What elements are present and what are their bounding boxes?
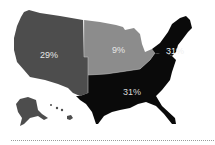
region-label-northeast: 31% (166, 47, 184, 56)
bottom-divider (11, 140, 215, 141)
region-label-south: 31% (123, 88, 141, 97)
region-label-midwest: 9% (112, 46, 125, 55)
region-hawaii[interactable] (50, 104, 73, 120)
region-label-west: 29% (40, 51, 58, 60)
region-alaska[interactable] (16, 97, 48, 126)
us-region-map (0, 0, 215, 145)
